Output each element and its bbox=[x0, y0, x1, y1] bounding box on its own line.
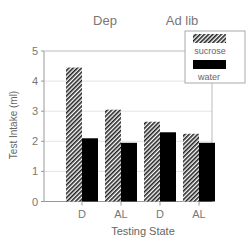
x-tick-labels: DALDAL bbox=[78, 202, 206, 221]
y-tick-label: 3 bbox=[32, 105, 38, 117]
bar-sucrose bbox=[105, 110, 121, 202]
group-label-dep: Dep bbox=[93, 13, 117, 28]
legend-label-sucrose: sucrose bbox=[194, 46, 226, 56]
bar-sucrose bbox=[66, 68, 82, 202]
y-tick-label: 0 bbox=[32, 196, 38, 208]
group-label-adlib: Ad lib bbox=[166, 13, 199, 28]
y-tick-label: 4 bbox=[32, 75, 38, 87]
bar-water bbox=[82, 138, 98, 201]
y-tick-label: 1 bbox=[32, 165, 38, 177]
y-tick-label: 2 bbox=[32, 135, 38, 147]
legend-swatch-sucrose bbox=[193, 34, 226, 43]
y-tick-label: 5 bbox=[32, 45, 38, 57]
bar-water bbox=[160, 132, 176, 201]
y-tick-labels: 012345 bbox=[32, 45, 44, 208]
bar-sucrose bbox=[183, 134, 199, 202]
bars bbox=[66, 68, 215, 202]
y-axis-label: Test Intake (ml) bbox=[8, 91, 19, 159]
x-tick-label: D bbox=[156, 208, 164, 220]
bar-water bbox=[121, 143, 137, 202]
x-tick-label: D bbox=[78, 208, 86, 220]
bar-water bbox=[199, 143, 215, 202]
x-tick-label: AL bbox=[192, 208, 205, 220]
bar-chart: Dep Ad lib 012345 DALDAL Testing State T… bbox=[0, 0, 247, 246]
legend: sucrose water bbox=[185, 31, 245, 83]
legend-label-water: water bbox=[197, 72, 220, 82]
x-axis-label: Testing State bbox=[111, 225, 175, 237]
bar-sucrose bbox=[144, 122, 160, 202]
x-tick-label: AL bbox=[114, 208, 127, 220]
legend-swatch-water bbox=[193, 60, 226, 69]
